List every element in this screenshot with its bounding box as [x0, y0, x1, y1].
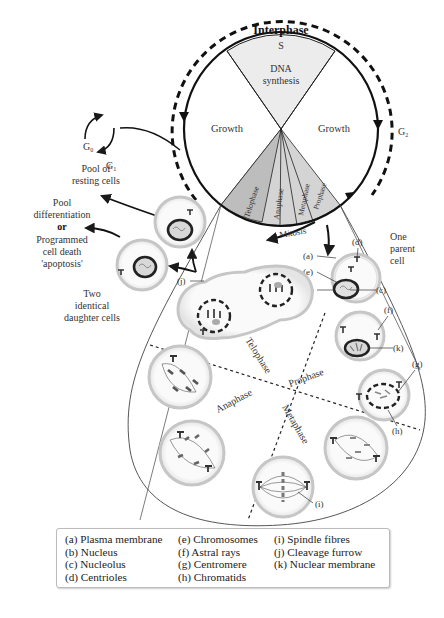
differentiation-label-1: Pool — [53, 197, 72, 208]
daughter-cell-bottom — [117, 240, 167, 290]
resting-pool-label-1: Pool of — [81, 163, 111, 174]
cell-cycle-diagram: Interphase S DNA synthesis Growth Growth… — [0, 0, 444, 618]
marker-f: (f) — [384, 305, 393, 315]
prophase-label: Prophase — [287, 366, 326, 389]
legend-box: (a) Plasma membrane (e) Chromosomes (i) … — [56, 528, 390, 588]
metaphase-cell — [253, 457, 313, 517]
cycle-arrow-right-icon — [373, 120, 383, 130]
legend-item-g: (g) Centromere — [178, 558, 274, 571]
legend-item-d: (d) Centrioles — [65, 571, 178, 584]
interphase-label: Interphase — [253, 23, 309, 37]
prophase-cell-early — [336, 312, 384, 360]
to-parent-cell-arrow — [327, 225, 329, 254]
differentiation-label-2: differentiation — [33, 209, 90, 220]
marker-g: (g) — [412, 359, 423, 369]
to-apoptosis-arrow — [86, 228, 120, 237]
to-resting-arrow — [102, 196, 157, 216]
marker-a: (a) — [303, 251, 313, 261]
legend-item-c: (c) Nucleolus — [65, 558, 178, 571]
mitosis-label: Mitosis — [279, 225, 308, 240]
metaphase-label: Metaphase — [280, 403, 311, 446]
g2-label: G2 — [398, 126, 408, 138]
telophase-label: Telophase — [243, 335, 274, 376]
or-label: or — [57, 221, 67, 232]
apoptosis-label-3: 'apoptosis' — [41, 258, 83, 269]
legend-item-h: (h) Chromatids — [178, 571, 274, 584]
legend-item-empty — [274, 571, 381, 584]
s-label: S — [278, 40, 284, 51]
legend-item-a: (a) Plasma membrane — [65, 533, 178, 546]
legend-item-f: (f) Astral rays — [178, 546, 274, 559]
anaphase-cell-early — [160, 421, 224, 485]
prometaphase-cell — [325, 417, 387, 479]
to-daughter-bottom-arrow — [170, 266, 196, 272]
legend-item-j: (j) Cleavage furrow — [274, 546, 381, 559]
parent-cell-label-2: parent — [390, 243, 415, 254]
g0-to-g1-arrow — [85, 115, 102, 139]
marker-d: (d) — [352, 237, 363, 247]
marker-k: (k) — [393, 343, 404, 353]
anaphase-label: Anaphase — [214, 386, 254, 414]
g1-to-g0-arrow — [98, 128, 114, 152]
legend-item-e: (e) Chromosomes — [178, 533, 274, 546]
apoptosis-label-2: cell death — [43, 246, 82, 257]
daughters-label-2: identical — [75, 300, 110, 311]
apoptosis-label-1: Programmed — [36, 234, 88, 245]
marker-j: (j) — [177, 276, 186, 286]
legend-item-k: (k) Nuclear membrane — [274, 558, 381, 571]
parent-cell — [332, 254, 380, 302]
marker-i: (i) — [315, 499, 324, 509]
dna-label: DNA — [270, 63, 292, 74]
anaphase-cell-late — [149, 346, 211, 408]
g0-label: G0 — [83, 141, 93, 153]
synthesis-label: synthesis — [263, 75, 300, 86]
marker-h: (h) — [392, 426, 403, 436]
cycle-arrow-left-icon — [179, 112, 189, 122]
legend-item-i: (i) Spindle fibres — [274, 533, 381, 546]
growth-left-label: Growth — [211, 123, 244, 134]
parent-cell-label-3: cell — [390, 255, 405, 266]
parent-cell-label-1: One — [390, 231, 407, 242]
resting-pool-label-2: resting cells — [72, 175, 120, 186]
daughters-label-1: Two — [83, 288, 101, 299]
growth-right-label: Growth — [318, 123, 351, 134]
marker-c: (c) — [376, 285, 386, 295]
telophase-cell — [178, 266, 312, 339]
daughter-cell-top — [155, 197, 205, 247]
legend-item-b: (b) Nucleus — [65, 546, 178, 559]
daughters-label-3: daughter cells — [64, 312, 120, 323]
